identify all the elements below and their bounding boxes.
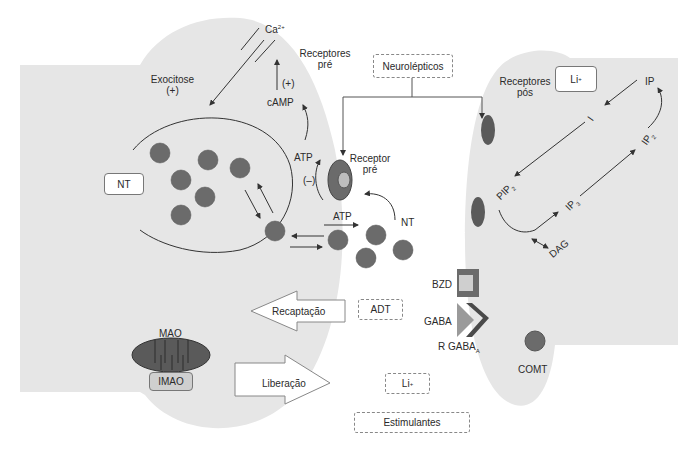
ip-label: IP <box>645 76 654 87</box>
lithium-post-box: Li+ <box>555 66 597 92</box>
comt-label: COMT <box>518 364 547 375</box>
presynaptic-receptors-label: Receptorespré <box>295 48 355 70</box>
imao-box: IMAO <box>149 372 193 391</box>
inhibit-sign: (–) <box>303 175 315 186</box>
stimulants-box: Estimulantes <box>354 412 470 433</box>
camp-sign: (+) <box>282 78 295 89</box>
camp-label: cAMP <box>267 97 294 108</box>
postsynaptic-receptors-label: Receptorespós <box>495 76 555 98</box>
comt-enzyme <box>525 331 545 351</box>
gaba-label: GABA <box>424 316 452 327</box>
postsynaptic-receptor-1 <box>481 115 495 145</box>
atp-label-cleft: ATP <box>333 211 352 222</box>
neuroleptics-box: Neurolépticos <box>373 54 453 78</box>
nt-box: NT <box>104 173 144 195</box>
calcium-label: Ca2+ <box>265 22 285 35</box>
gaba-a-receptor-label: R GABAA <box>438 341 480 357</box>
presynaptic-receptor-label: Receptorpré <box>345 153 395 175</box>
adt-box: ADT <box>358 299 403 320</box>
lithium-box: Li+ <box>385 373 430 394</box>
atp-label-top: ATP <box>294 152 313 163</box>
mao-enzyme <box>132 338 210 372</box>
nt-cleft-label: NT <box>401 217 414 228</box>
mao-label: MAO <box>159 328 182 339</box>
reuptake-label: Recaptação <box>272 306 325 317</box>
bzd-label: BZD <box>432 279 452 290</box>
postsynaptic-neuron <box>465 51 678 406</box>
release-label: Liberação <box>262 378 306 389</box>
exocytosis-label: Exocitose(+) <box>145 74 200 96</box>
postsynaptic-receptor-2 <box>471 197 485 227</box>
